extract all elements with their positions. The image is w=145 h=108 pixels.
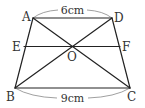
vertex-label-d: D bbox=[114, 11, 124, 25]
point-label-o: O bbox=[67, 50, 77, 64]
vertex-label-c: C bbox=[127, 90, 136, 104]
top-dimension-label: 6cm bbox=[61, 4, 85, 17]
point-label-e: E bbox=[12, 40, 21, 54]
point-label-f: F bbox=[122, 40, 130, 54]
diagonal-ac bbox=[33, 18, 130, 88]
bottom-dimension-brace-left bbox=[15, 88, 57, 98]
vertex-label-b: B bbox=[6, 90, 15, 104]
diagonal-bd bbox=[15, 18, 112, 88]
bottom-dimension-brace-right bbox=[88, 88, 130, 98]
vertex-label-a: A bbox=[21, 10, 31, 24]
top-dimension-brace-left bbox=[33, 10, 58, 18]
bottom-dimension-label: 9cm bbox=[61, 92, 85, 105]
trapezoid-diagram: 6cm 9cm A D B C E F O bbox=[0, 0, 145, 108]
top-dimension-brace-right bbox=[87, 10, 112, 18]
